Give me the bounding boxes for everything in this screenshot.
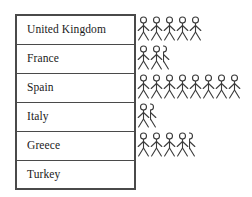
person-figure-icon — [150, 45, 163, 70]
person-figure-icon — [202, 74, 215, 99]
table-row: United Kingdom — [16, 15, 135, 44]
person-figure-icon — [137, 16, 150, 41]
person-figure-half-icon — [189, 132, 196, 157]
category-label-italy: Italy — [16, 102, 135, 131]
person-figure-icon — [137, 103, 150, 128]
person-figure-icon — [163, 16, 176, 41]
category-label-france: France — [16, 44, 135, 73]
person-figure-half-icon — [150, 103, 157, 128]
person-figure-icon — [163, 132, 176, 157]
person-figure-icon — [215, 74, 228, 99]
figure-row-france — [137, 43, 252, 72]
category-label-spain: Spain — [16, 73, 135, 102]
table-row: Turkey — [16, 160, 135, 189]
table-row: Spain — [16, 73, 135, 102]
figure-row-greece — [137, 130, 252, 159]
table-row: Italy — [16, 102, 135, 131]
table-row: France — [16, 44, 135, 73]
category-label-greece: Greece — [16, 131, 135, 160]
person-figure-icon — [150, 74, 163, 99]
person-figure-icon — [189, 74, 202, 99]
pictogram-chart: United Kingdom France Spain Italy Greece… — [0, 0, 252, 197]
person-figure-icon — [137, 45, 150, 70]
category-label-turkey: Turkey — [16, 160, 135, 189]
table-row: Greece — [16, 131, 135, 160]
person-figure-icon — [150, 16, 163, 41]
figure-row-italy — [137, 101, 252, 130]
person-figure-half-icon — [163, 45, 170, 70]
person-figure-icon — [163, 74, 176, 99]
person-figure-icon — [189, 16, 202, 41]
person-figure-icon — [176, 16, 189, 41]
figure-row-spain — [137, 72, 252, 101]
person-figure-icon — [137, 132, 150, 157]
category-label-table: United Kingdom France Spain Italy Greece… — [15, 14, 136, 190]
figure-row-united-kingdom — [137, 14, 252, 43]
person-figure-icon — [228, 74, 241, 99]
category-label-united-kingdom: United Kingdom — [16, 15, 135, 44]
person-figure-icon — [176, 132, 189, 157]
pictogram-figures-area — [137, 14, 252, 190]
person-figure-icon — [137, 74, 150, 99]
category-label-table-body: United Kingdom France Spain Italy Greece… — [16, 15, 135, 189]
person-figure-icon — [176, 74, 189, 99]
figure-row-turkey — [137, 159, 252, 188]
person-figure-icon — [150, 132, 163, 157]
